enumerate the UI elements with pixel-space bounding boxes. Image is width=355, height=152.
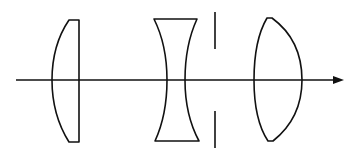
optical-diagram-svg [0,0,355,152]
plano-convex-lens [52,20,79,142]
optical-diagram [0,0,355,152]
arrow-head-icon [333,76,344,84]
